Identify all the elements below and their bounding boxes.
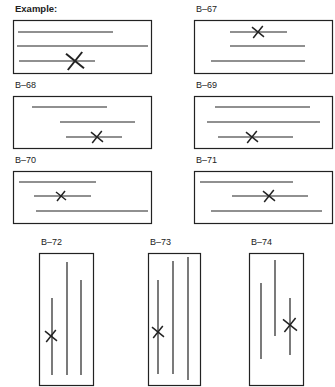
panel-label-b-68: B–68 xyxy=(15,80,36,90)
panel-example xyxy=(14,21,152,74)
panel-b-68 xyxy=(14,97,152,149)
panel-frame xyxy=(250,254,304,386)
panel-frame xyxy=(149,254,201,386)
panel-label-b-70: B–70 xyxy=(15,155,36,165)
x-mark-icon xyxy=(45,330,57,342)
panel-label-b-69: B–69 xyxy=(196,80,217,90)
panel-frame xyxy=(195,21,333,74)
panel-b-72 xyxy=(40,254,94,386)
panel-label-b-73: B–73 xyxy=(150,237,171,247)
panel-frame xyxy=(195,172,333,224)
panel-b-70 xyxy=(14,172,152,224)
panel-b-71 xyxy=(195,172,333,224)
panel-b-69 xyxy=(195,97,333,149)
panel-frame xyxy=(14,21,152,74)
panel-label-b-71: B–71 xyxy=(196,155,217,165)
panel-b-74 xyxy=(250,254,304,386)
panel-b-73 xyxy=(149,254,201,386)
panel-label-b-74: B–74 xyxy=(251,237,272,247)
panel-frame xyxy=(14,172,152,224)
panel-label-example: Example: xyxy=(15,4,57,14)
panel-label-b-67: B–67 xyxy=(196,4,217,14)
panel-label-b-72: B–72 xyxy=(41,237,62,247)
panel-b-67 xyxy=(195,21,333,74)
diagram-canvas xyxy=(0,0,335,387)
